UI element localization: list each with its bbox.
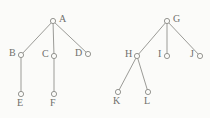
node-A[interactable] — [50, 18, 55, 23]
node-K[interactable] — [115, 89, 120, 94]
node-label-B: B — [9, 48, 16, 58]
node-B[interactable] — [18, 52, 23, 57]
edge-H-L — [137, 56, 148, 92]
node-label-A: A — [59, 14, 66, 24]
node-D[interactable] — [85, 51, 90, 56]
node-C[interactable] — [51, 53, 56, 58]
node-label-J: J — [190, 49, 194, 59]
node-label-H: H — [125, 49, 132, 59]
node-I[interactable] — [164, 53, 169, 58]
node-label-G: G — [173, 14, 180, 24]
node-F[interactable] — [51, 91, 56, 96]
node-E[interactable] — [18, 91, 23, 96]
node-label-K: K — [113, 96, 120, 106]
node-label-D: D — [75, 48, 82, 58]
node-label-E: E — [17, 98, 23, 108]
node-label-L: L — [144, 96, 150, 106]
edge-A-C — [53, 21, 54, 56]
node-H[interactable] — [134, 53, 139, 58]
node-label-F: F — [50, 98, 56, 108]
node-G[interactable] — [164, 18, 169, 23]
node-label-I: I — [158, 49, 161, 59]
edge-G-H — [137, 21, 167, 56]
edge-G-J — [167, 21, 200, 56]
edge-H-K — [118, 56, 137, 92]
node-label-C: C — [42, 49, 49, 59]
diagram-canvas: ABCDEFGHIJKL — [0, 0, 210, 118]
edge-A-D — [53, 21, 88, 54]
node-L[interactable] — [145, 89, 150, 94]
node-J[interactable] — [197, 53, 202, 58]
